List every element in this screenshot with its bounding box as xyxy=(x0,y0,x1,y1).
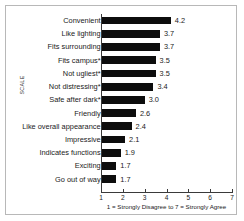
bar-value-label: 2.4 xyxy=(136,120,146,133)
x-tick xyxy=(145,189,146,193)
x-tick xyxy=(123,189,124,193)
chart-row: Like overall appearance2.4 xyxy=(14,120,234,133)
bar xyxy=(101,43,160,51)
bar xyxy=(101,175,116,183)
bar-value-label: 2.6 xyxy=(140,107,150,120)
bar-value-label: 1.7 xyxy=(120,173,130,186)
category-label: Fits campus* xyxy=(58,54,101,67)
category-label: Impressive xyxy=(65,133,101,146)
chart-row: Exciting1.7 xyxy=(14,159,234,172)
bar-value-label: 3.5 xyxy=(160,54,170,67)
chart-row: Indicates functions1.9 xyxy=(14,146,234,159)
plot-area: Convenient4.2Like lighting3.7Fits surrou… xyxy=(14,14,234,190)
bar xyxy=(101,83,153,91)
bar-value-label: 3.5 xyxy=(160,67,170,80)
bar xyxy=(101,136,125,144)
x-tick xyxy=(101,189,102,193)
category-label: Like overall appearance xyxy=(22,120,100,133)
bar-value-label: 3.7 xyxy=(164,40,174,53)
x-axis-caption: 1 = Strongly Disagree to 7 = Strongly Ag… xyxy=(101,203,232,210)
category-label: Friendly xyxy=(74,107,100,120)
bar xyxy=(101,70,156,78)
x-tick-label: 3 xyxy=(138,194,152,201)
category-label: Not ugliest* xyxy=(63,67,101,80)
x-tick-label: 7 xyxy=(225,194,239,201)
bar-value-label: 1.7 xyxy=(120,159,130,172)
category-label: Not distressing* xyxy=(49,80,101,93)
x-tick-label: 2 xyxy=(116,194,130,201)
bar xyxy=(101,162,116,170)
x-tick xyxy=(188,189,189,193)
chart-row: Fits surrounding3.7 xyxy=(14,40,234,53)
category-label: Safe after dark* xyxy=(49,93,100,106)
chart-row: Not ugliest*3.5 xyxy=(14,67,234,80)
x-tick xyxy=(167,189,168,193)
bar xyxy=(101,109,136,117)
bar xyxy=(101,149,121,157)
chart-row: Go out of way1.7 xyxy=(14,173,234,186)
chart-row: Safe after dark*3.0 xyxy=(14,93,234,106)
x-tick-label: 6 xyxy=(203,194,217,201)
chart-row: Impressive2.1 xyxy=(14,133,234,146)
chart-row: Fits campus*3.5 xyxy=(14,54,234,67)
x-tick-label: 4 xyxy=(160,194,174,201)
bar xyxy=(101,96,145,104)
category-label: Go out of way xyxy=(55,173,101,186)
x-tick xyxy=(232,189,233,193)
bar-value-label: 3.0 xyxy=(149,93,159,106)
bar-value-label: 4.2 xyxy=(175,14,185,27)
category-label: Fits surrounding xyxy=(48,40,101,53)
bar xyxy=(101,30,160,38)
chart-row: Like lighting3.7 xyxy=(14,27,234,40)
bar xyxy=(101,56,156,64)
x-tick xyxy=(210,189,211,193)
bar-value-label: 1.9 xyxy=(125,146,135,159)
bar-value-label: 3.4 xyxy=(157,80,167,93)
x-tick-label: 1 xyxy=(94,194,108,201)
y-axis-line xyxy=(101,14,102,192)
chart-row: Friendly2.6 xyxy=(14,107,234,120)
category-label: Like lighting xyxy=(62,27,101,40)
bar xyxy=(101,122,132,130)
chart-figure: SCALE Convenient4.2Like lighting3.7Fits … xyxy=(0,0,244,221)
category-label: Indicates functions xyxy=(39,146,100,159)
bar-value-label: 3.7 xyxy=(164,27,174,40)
chart-row: Convenient4.2 xyxy=(14,14,234,27)
category-label: Exciting xyxy=(75,159,101,172)
category-label: Convenient xyxy=(63,14,100,27)
x-tick-label: 5 xyxy=(181,194,195,201)
bar xyxy=(101,17,171,25)
bar-value-label: 2.1 xyxy=(129,133,139,146)
chart-row: Not distressing*3.4 xyxy=(14,80,234,93)
